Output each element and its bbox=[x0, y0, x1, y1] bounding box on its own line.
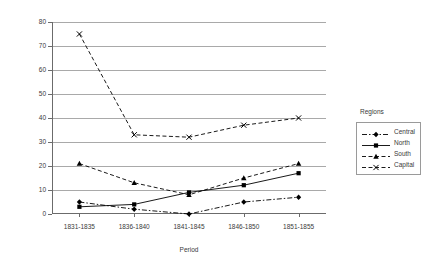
x-tick-label: 1851-1855 bbox=[264, 224, 334, 231]
series-line bbox=[79, 164, 298, 195]
data-point-marker bbox=[132, 202, 136, 206]
data-point-marker bbox=[297, 171, 301, 175]
series-line bbox=[79, 173, 298, 207]
data-point-marker bbox=[374, 143, 378, 147]
y-tick-label: 80 bbox=[20, 19, 46, 26]
data-point-marker bbox=[77, 205, 81, 209]
y-tick-label: 60 bbox=[20, 67, 46, 74]
data-point-marker bbox=[296, 161, 301, 166]
y-tick-label: 50 bbox=[20, 91, 46, 98]
legend-key-icon bbox=[361, 126, 391, 137]
legend-item: South bbox=[361, 148, 415, 159]
data-point-marker bbox=[77, 161, 82, 166]
legend-key-icon bbox=[361, 148, 391, 159]
legend-label: Central bbox=[391, 128, 415, 135]
y-tick-label: 70 bbox=[20, 43, 46, 50]
data-point-marker bbox=[296, 194, 301, 200]
data-point-marker bbox=[296, 115, 301, 120]
legend-label: North bbox=[391, 139, 410, 146]
legend-label: South bbox=[391, 150, 411, 157]
data-point-marker bbox=[132, 206, 137, 212]
data-point-marker bbox=[241, 175, 246, 180]
plot-area: 01020304050607080 1831-18351836-18401841… bbox=[52, 22, 326, 214]
data-point-marker bbox=[186, 211, 191, 217]
y-tick-mark bbox=[48, 214, 52, 215]
y-tick-label: 20 bbox=[20, 163, 46, 170]
legend-item: Capital bbox=[361, 159, 415, 170]
data-point-marker bbox=[242, 183, 246, 187]
data-point-marker bbox=[132, 132, 137, 137]
legend: CentralNorthSouthCapital bbox=[356, 122, 421, 175]
y-tick-label: 30 bbox=[20, 139, 46, 146]
legend-key-icon bbox=[361, 137, 391, 148]
data-point-marker bbox=[77, 31, 82, 36]
y-tick-label: 10 bbox=[20, 187, 46, 194]
legend-item: North bbox=[361, 137, 415, 148]
data-point-marker bbox=[132, 180, 137, 185]
series-line bbox=[79, 34, 298, 137]
series-lines bbox=[52, 22, 326, 214]
y-tick-label: 40 bbox=[20, 115, 46, 122]
data-point-marker bbox=[241, 199, 246, 205]
x-axis-title: Period bbox=[52, 246, 326, 253]
data-point-marker bbox=[77, 199, 82, 205]
legend-title: Regions bbox=[360, 108, 384, 115]
legend-label: Capital bbox=[391, 161, 414, 168]
chart-container: Number 01020304050607080 1831-18351836-1… bbox=[0, 0, 439, 270]
y-tick-label: 0 bbox=[20, 211, 46, 218]
legend-item: Central bbox=[361, 126, 415, 137]
legend-key-icon bbox=[361, 159, 391, 170]
